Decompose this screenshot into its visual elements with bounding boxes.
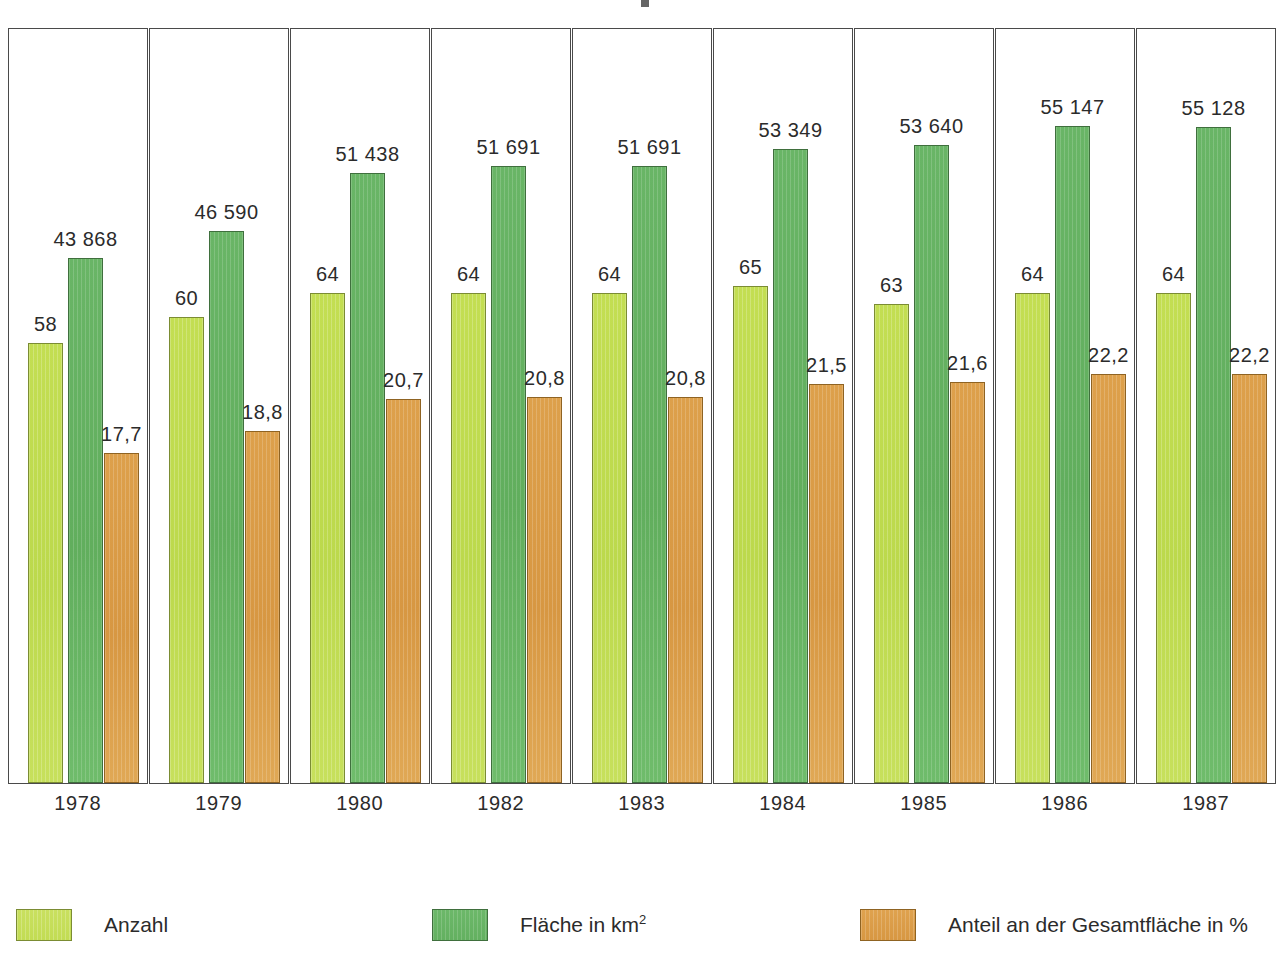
bar-area-1986[interactable] [1055, 126, 1090, 783]
bar-count-1984[interactable] [733, 286, 768, 783]
bar-area-1987[interactable] [1196, 127, 1231, 783]
bar-group: 6451 69120,8 [432, 29, 570, 783]
bar-count-1980[interactable] [310, 293, 345, 783]
chart-legend: AnzahlFläche in km2Anteil an der Gesamtf… [0, 905, 1285, 951]
title-clipped-mark [641, 0, 649, 7]
bar-share-1982[interactable] [527, 397, 562, 783]
x-axis-tick-labels: 197819791980198219831984198519861987 [8, 792, 1277, 826]
x-tick-1983: 1983 [592, 792, 692, 815]
bar-group: 6451 69120,8 [573, 29, 711, 783]
bar-area-1985[interactable] [914, 145, 949, 783]
chart-panel-1986: 6455 14722,2 [995, 28, 1135, 784]
bar-share-1979[interactable] [245, 431, 280, 783]
bar-group: 5843 86817,7 [9, 29, 147, 783]
bar-group: 6451 43820,7 [291, 29, 429, 783]
bar-area-1978[interactable] [68, 258, 103, 783]
bar-area-1982[interactable] [491, 166, 526, 783]
bar-value-label-area-1985: 53 640 [878, 116, 986, 136]
bar-value-label-area-1986: 55 147 [1019, 97, 1127, 117]
chart-panel-1980: 6451 43820,7 [290, 28, 430, 784]
bar-count-1986[interactable] [1015, 293, 1050, 783]
legend-item-3[interactable]: Anteil an der Gesamtfläche in % [860, 905, 1248, 945]
x-tick-1987: 1987 [1156, 792, 1256, 815]
chart-panel-1984: 6553 34921,5 [713, 28, 853, 784]
chart-panel-1983: 6451 69120,8 [572, 28, 712, 784]
legend-superscript: 2 [639, 912, 646, 927]
bar-chart: 5843 86817,76046 59018,86451 43820,76451… [8, 28, 1277, 784]
bar-group: 6455 12822,2 [1137, 29, 1275, 783]
x-tick-1980: 1980 [310, 792, 410, 815]
bar-count-1982[interactable] [451, 293, 486, 783]
bar-count-1979[interactable] [169, 317, 204, 783]
bar-share-1986[interactable] [1091, 374, 1126, 783]
bar-value-label-area-1987: 55 128 [1160, 98, 1268, 118]
legend-swatch-share [860, 909, 916, 941]
chart-panel-1978: 5843 86817,7 [8, 28, 148, 784]
bar-share-1978[interactable] [104, 453, 139, 783]
legend-label-2: Fläche in km2 [520, 913, 646, 937]
x-tick-1982: 1982 [451, 792, 551, 815]
bar-group: 6455 14722,2 [996, 29, 1134, 783]
bar-value-label-area-1978: 43 868 [32, 229, 140, 249]
x-tick-1986: 1986 [1015, 792, 1115, 815]
bar-count-1987[interactable] [1156, 293, 1191, 783]
bar-share-1987[interactable] [1232, 374, 1267, 783]
bar-group: 6553 34921,5 [714, 29, 852, 783]
bar-count-1983[interactable] [592, 293, 627, 783]
bar-value-label-area-1983: 51 691 [596, 137, 704, 157]
bar-share-1980[interactable] [386, 399, 421, 783]
bar-value-label-area-1980: 51 438 [314, 144, 422, 164]
bar-value-label-area-1984: 53 349 [737, 120, 845, 140]
bar-area-1979[interactable] [209, 231, 244, 783]
x-tick-1985: 1985 [874, 792, 974, 815]
bar-area-1983[interactable] [632, 166, 667, 783]
legend-swatch-area [432, 909, 488, 941]
chart-panel-1982: 6451 69120,8 [431, 28, 571, 784]
bar-area-1980[interactable] [350, 173, 385, 783]
bar-share-1983[interactable] [668, 397, 703, 783]
bar-count-1985[interactable] [874, 304, 909, 783]
chart-panel-1979: 6046 59018,8 [149, 28, 289, 784]
bar-value-label-area-1982: 51 691 [455, 137, 563, 157]
bar-area-1984[interactable] [773, 149, 808, 783]
legend-swatch-count [16, 909, 72, 941]
x-tick-1978: 1978 [28, 792, 128, 815]
chart-panel-1985: 6353 64021,6 [854, 28, 994, 784]
x-tick-1979: 1979 [169, 792, 269, 815]
bar-value-label-share-1987: 22,2 [1196, 345, 1285, 365]
bar-share-1985[interactable] [950, 382, 985, 783]
bar-share-1984[interactable] [809, 384, 844, 783]
legend-item-1[interactable]: Anzahl [16, 905, 168, 945]
chart-panel-1987: 6455 12822,2 [1136, 28, 1276, 784]
x-tick-1984: 1984 [733, 792, 833, 815]
bar-value-label-area-1979: 46 590 [173, 202, 281, 222]
bar-count-1978[interactable] [28, 343, 63, 783]
bar-group: 6353 64021,6 [855, 29, 993, 783]
legend-item-2[interactable]: Fläche in km2 [432, 905, 646, 945]
legend-label-1: Anzahl [104, 913, 168, 937]
bar-group: 6046 59018,8 [150, 29, 288, 783]
legend-label-3: Anteil an der Gesamtfläche in % [948, 913, 1248, 937]
